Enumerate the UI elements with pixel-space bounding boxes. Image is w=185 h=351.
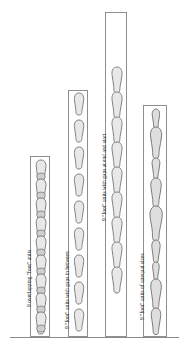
column-gaps-at-ends [105, 12, 127, 337]
column-overlapping [30, 156, 50, 337]
column-3-footprints [106, 13, 128, 338]
caption-column-gaps-at-ends: 9 "foot" units with gaps at end and star… [101, 134, 107, 221]
column-4-footprints [144, 106, 168, 338]
caption-column-unequal-sizes: 9 "foot" units of unequal sizes [139, 253, 145, 320]
caption-column-overlapping: 9 overlapping "foot" units [26, 250, 32, 307]
baseline-rule [10, 337, 179, 338]
column-2-footprints [69, 91, 89, 338]
caption-column-gaps-in-between: 9 "foot" units with gaps in between [64, 251, 70, 329]
column-unequal-sizes [143, 105, 167, 337]
column-1-footprints [31, 157, 51, 338]
column-gaps-in-between [68, 90, 88, 337]
figure-canvas: 9 overlapping "foot" units 9 "foot" unit… [0, 0, 185, 351]
